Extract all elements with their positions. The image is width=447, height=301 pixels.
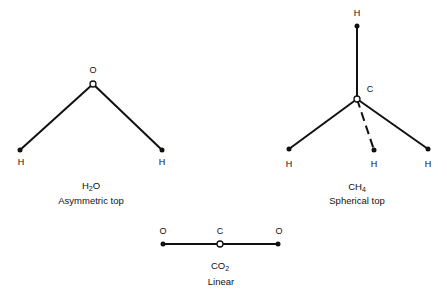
co2-o-right-label: O: [275, 227, 282, 236]
ch4-h-left-label: H: [286, 160, 293, 169]
ch4-h-middle-label: H: [371, 160, 378, 169]
c-atom: [354, 96, 360, 102]
h2o-structure: [18, 81, 165, 153]
molecule-diagram: [0, 0, 447, 301]
o-atom: [276, 242, 281, 247]
ch4-formula: CH4: [348, 182, 366, 193]
co2-type-label: Linear: [208, 277, 234, 287]
h-atom: [426, 147, 431, 152]
h-atom: [372, 148, 377, 153]
h-atom: [287, 147, 292, 152]
h2o-formula: H2O: [82, 181, 100, 192]
h2o-h-left-label: H: [18, 158, 25, 167]
ch4-h-top-label: H: [354, 9, 361, 18]
ch4-structure: [287, 24, 431, 153]
h-atom: [355, 24, 360, 29]
o-atom: [161, 242, 166, 247]
h-atom: [18, 148, 23, 153]
ch4-h-right-label: H: [425, 160, 432, 169]
co2-structure: [161, 241, 281, 247]
h2o-h-right-label: H: [159, 158, 166, 167]
co2-formula: CO2: [211, 261, 229, 272]
h-atom: [160, 148, 165, 153]
h2o-type-label: Asymmetric top: [58, 196, 123, 206]
co2-o-left-label: O: [159, 227, 166, 236]
o-atom: [90, 81, 96, 87]
co2-c-label: C: [217, 227, 224, 236]
ch4-c-label: C: [367, 85, 374, 94]
h2o-o-label: O: [89, 66, 96, 75]
c-atom: [217, 241, 223, 247]
ch4-type-label: Spherical top: [329, 196, 384, 206]
